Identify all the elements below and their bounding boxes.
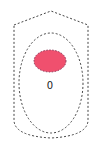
outer-boundary-shape xyxy=(14,11,88,138)
node-label: 0 xyxy=(40,80,60,91)
diagram-canvas xyxy=(0,0,104,151)
core-ellipse xyxy=(34,50,66,72)
